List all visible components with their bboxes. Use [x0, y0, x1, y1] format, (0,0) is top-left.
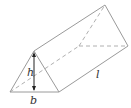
length-label: l	[96, 68, 100, 81]
triangular-prism-diagram: h b l	[0, 0, 131, 108]
top-ridge-edge	[34, 5, 105, 51]
base-label: b	[30, 94, 37, 107]
height-label: h	[27, 66, 34, 79]
arrow-down-icon	[32, 86, 36, 91]
back-right-edge	[105, 5, 128, 46]
hidden-back-left-edge	[79, 5, 105, 46]
